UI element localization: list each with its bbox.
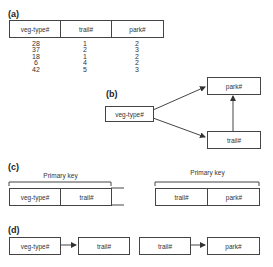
attr-veg-type: veg-type# [10, 189, 61, 205]
fd-left-dependent: trail# [78, 237, 130, 255]
node-veg-type: veg-type# [105, 106, 154, 122]
panel-a-label: (a) [8, 9, 19, 19]
cell: 42 [26, 67, 46, 73]
node-trail: trail# [207, 131, 261, 149]
panel-c-label: (c) [8, 162, 19, 172]
primary-key-bracket-right [155, 182, 259, 186]
column-trail-values: 1 2 1 4 5 [75, 41, 95, 73]
edge-vegtype-to-park [153, 87, 205, 110]
column-veg-type-values: 28 37 18 6 42 [26, 41, 46, 73]
cell: 5 [75, 67, 95, 73]
attr-trail: trail# [156, 189, 208, 205]
header-trail: trail# [61, 21, 112, 37]
primary-key-label-left: Primary key [9, 172, 112, 179]
primary-key-bracket-left [9, 182, 111, 186]
relation-table-header: veg-type# trail# park# [9, 20, 164, 38]
fd-right-determinant: trail# [139, 237, 191, 255]
column-park-values: 2 3 2 2 3 [127, 41, 147, 73]
relation-vegtype-trail: veg-type# trail# [9, 188, 112, 206]
fd-right-dependent: park# [207, 237, 260, 255]
node-park: park# [207, 77, 261, 95]
header-veg-type: veg-type# [10, 21, 61, 37]
panel-b-label: (b) [106, 89, 118, 99]
attr-trail: trail# [61, 189, 112, 205]
primary-key-label-right: Primary key [155, 169, 260, 176]
relation-trail-park: trail# park# [155, 188, 260, 206]
cell: 3 [127, 67, 147, 73]
edge-vegtype-to-trail [153, 118, 205, 137]
fd-left-determinant: veg-type# [9, 237, 61, 255]
panel-d-label: (d) [8, 225, 20, 235]
header-park: park# [112, 21, 163, 37]
attr-park: park# [208, 189, 260, 205]
